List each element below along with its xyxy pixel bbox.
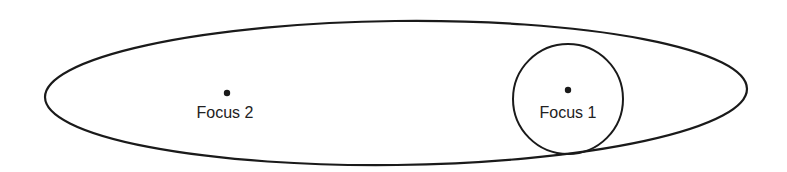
focus-1-dot: [565, 87, 571, 93]
focus-2-dot: [224, 90, 230, 96]
focus-1-label: Focus 1: [540, 104, 597, 121]
orbit-ellipse: [44, 17, 748, 170]
focus-circle: [513, 44, 623, 154]
focus-2-label: Focus 2: [197, 104, 254, 121]
ellipse-diagram: Focus 2 Focus 1: [0, 0, 787, 172]
